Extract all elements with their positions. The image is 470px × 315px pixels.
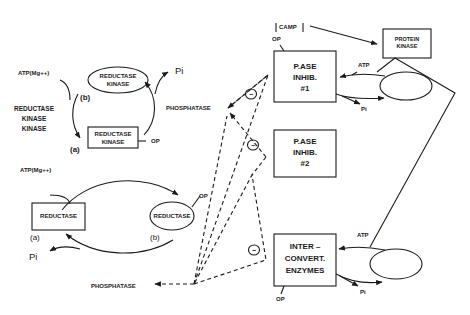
- state-b-label-bottom: (b): [150, 234, 160, 242]
- pase-inhib-1-ellipse: [380, 72, 432, 100]
- pk-line-2: [370, 58, 455, 247]
- atp-label-pase-inhib-1: ATP: [358, 62, 370, 68]
- phosphatase-label-top: PHOSPHATASE: [166, 105, 211, 111]
- pase-inhib-2-label: P.ASE INHIB. #2: [274, 136, 336, 170]
- svg-text:−: −: [249, 91, 253, 98]
- camp-activation-arrow: [310, 26, 377, 44]
- svg-text:−: −: [251, 142, 255, 149]
- pi-release-arrow-bottom: [50, 247, 80, 251]
- op-label-top: OP: [151, 138, 160, 144]
- reductase-phos-arrow: [62, 181, 178, 210]
- op-label-interconvert: OP: [276, 296, 285, 302]
- pi-label-top: Pi: [175, 66, 183, 76]
- reductase-kinase-ellipse-label: REDUCTASE KINASE: [90, 73, 146, 89]
- camp-label: CAMP: [279, 24, 297, 30]
- kinase-activation-arrow: [73, 94, 80, 138]
- atp-mg-label-top: ATP(Mg++): [18, 70, 49, 76]
- op-label-bottom: OP: [199, 193, 208, 199]
- interconvert-ellipse: [370, 249, 422, 279]
- atp-label-interconvert: ATP: [357, 232, 369, 238]
- reductase-kinase-box-label: REDUCTASE KINASE: [88, 131, 138, 147]
- state-a-label-bottom: (a): [30, 234, 40, 242]
- pi-release-arrow-top: [155, 72, 168, 94]
- reductase-kinase-kinase-label: REDUCTASE KINASE KINASE: [10, 104, 58, 134]
- state-b-label-top: (b): [80, 94, 90, 102]
- reductase-ellipse-label: REDUCTASE: [150, 213, 194, 219]
- interconvert-enzymes-label: INTER – CONVERT. ENZYMES: [274, 241, 336, 277]
- pi-label-pase-inhib-1: Pi: [361, 106, 367, 112]
- op-label-pase-inhib-1: OP: [272, 36, 281, 42]
- state-a-label-top: (a): [70, 146, 80, 154]
- phosphatase-label-bottom: PHOSPHATASE: [91, 283, 136, 289]
- pk-line-1: [377, 58, 395, 72]
- protein-kinase-label: PROTEIN KINASE: [383, 36, 431, 51]
- inhib-dash-lower: [194, 175, 266, 284]
- pase-inhib-1-label: P.ASE INHIB. #1: [274, 61, 336, 95]
- atp-input-curve-top: [60, 80, 70, 100]
- svg-text:−: −: [252, 247, 256, 254]
- atp-mg-label-bottom: ATP(Mg++): [20, 167, 51, 173]
- reductase-box-label: REDUCTASE: [32, 213, 85, 219]
- pi-label-interconvert: Pi: [360, 289, 366, 295]
- pi-label-bottom: Pi: [29, 252, 37, 262]
- kinase-dephos-arrow: [144, 82, 155, 135]
